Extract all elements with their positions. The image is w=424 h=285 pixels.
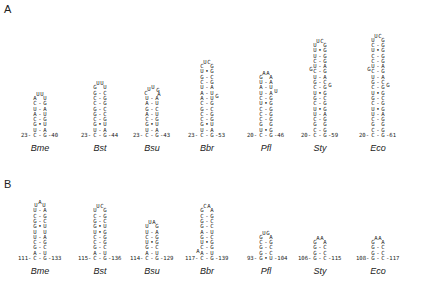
nucleotide-right: C	[42, 244, 48, 250]
position-number-right: -61	[386, 132, 396, 138]
nucleotide-right: G	[42, 213, 48, 219]
position-number-left: 23-	[81, 132, 91, 138]
nucleotide-right: G	[322, 47, 328, 53]
nucleotide-right: G	[102, 95, 108, 101]
nucleotide-right: C	[209, 106, 215, 112]
nucleotide-right: C	[322, 79, 328, 85]
nucleotide-right: A	[380, 74, 386, 80]
nucleotide-right: C	[102, 218, 108, 224]
nucleotide-right: A	[42, 234, 48, 240]
loop-nucleotide: U	[42, 95, 48, 101]
nucleotide-right: U	[42, 111, 48, 117]
position-number-left: 117-	[185, 255, 198, 261]
nucleotide-right: A	[322, 74, 328, 80]
species-label: Bsu	[127, 143, 177, 153]
species-label: Bst	[75, 143, 125, 153]
nucleotide-right: C	[322, 244, 328, 250]
position-number-right: -139	[215, 255, 228, 261]
nucleotide-right: G	[380, 90, 386, 96]
loop-nucleotide: A	[268, 234, 274, 240]
nucleotide-right: G	[154, 239, 160, 245]
nucleotide-right: G	[322, 53, 328, 59]
position-number-right: -44	[108, 132, 118, 138]
loop-nucleotide: A	[322, 239, 328, 245]
nucleotide-right: G	[380, 106, 386, 112]
position-number-left: 93-	[247, 255, 257, 261]
nucleotide-right: U	[154, 100, 160, 106]
nucleotide-right: U	[102, 121, 108, 127]
position-number-right: -129	[160, 255, 173, 261]
position-number-right: -40	[48, 132, 58, 138]
nucleotide-right: G	[322, 68, 328, 74]
nucleotide-right: A	[322, 63, 328, 69]
loop-nucleotide: A	[209, 207, 215, 213]
nucleotide-right: G	[209, 213, 215, 219]
position-number-right: -43	[160, 132, 170, 138]
panel-label: B	[4, 178, 11, 190]
loop-nucleotide: A	[268, 74, 274, 80]
loop-nucleotide: G	[322, 42, 328, 48]
nucleotide-right: G	[209, 111, 215, 117]
loop-nucleotide: G	[154, 223, 160, 229]
nucleotide-right: A	[42, 207, 48, 213]
species-label: Pfl	[241, 266, 291, 276]
nucleotide-left: G	[258, 121, 264, 127]
nucleotide-right: U	[42, 223, 48, 229]
nucleotide-right: G	[102, 234, 108, 240]
nucleotide-right: G	[102, 239, 108, 245]
position-number-left: 23-	[21, 132, 31, 138]
loop-nucleotide: A	[380, 239, 386, 245]
species-label: Bme	[15, 143, 65, 153]
loop-nucleotide: A	[156, 91, 162, 97]
nucleotide-right: A	[42, 106, 48, 112]
position-number-right: -53	[215, 132, 225, 138]
nucleotide-left: U	[32, 229, 38, 235]
nucleotide-right: G	[209, 239, 215, 245]
nucleotide-right: U	[154, 111, 160, 117]
nucleotide-right: A	[380, 111, 386, 117]
nucleotide-right: G	[209, 100, 215, 106]
species-label: Bbr	[182, 266, 232, 276]
position-number-right: -117	[386, 255, 399, 261]
nucleotide-right: U	[154, 121, 160, 127]
nucleotide-right: C	[209, 223, 215, 229]
nucleotide-right: G	[102, 213, 108, 219]
nucleotide-right: G	[268, 239, 274, 245]
nucleotide-right: A	[268, 79, 274, 85]
position-number-right: -104	[274, 255, 287, 261]
nucleotide-right: U	[209, 121, 215, 127]
nucleotide-right: C	[380, 79, 386, 85]
nucleotide-right: G	[209, 68, 215, 74]
loop-nucleotide: U	[102, 84, 108, 90]
nucleotide-right: G	[42, 100, 48, 106]
position-number-right: -136	[108, 255, 121, 261]
nucleotide-right: G	[380, 42, 386, 48]
position-number-right: -133	[48, 255, 61, 261]
nucleotide-right: G	[209, 244, 215, 250]
nucleotide-right: G	[322, 121, 328, 127]
nucleotide-right: C	[42, 218, 48, 224]
nucleotide-right: G	[380, 47, 386, 53]
position-number-left: 108-	[356, 255, 369, 261]
nucleotide-right: G	[268, 100, 274, 106]
nucleotide-right: G	[268, 111, 274, 117]
nucleotide-right: G	[102, 100, 108, 106]
nucleotide-right: A	[154, 229, 160, 235]
nucleotide-right: G	[380, 53, 386, 59]
nucleotide-right: G	[322, 58, 328, 64]
position-number-left: 23-	[188, 132, 198, 138]
position-number-left: 20-	[247, 132, 257, 138]
species-label: Sty	[295, 266, 345, 276]
position-number-right: -46	[274, 132, 284, 138]
nucleotide-right: G	[102, 116, 108, 122]
position-number-left: 23-	[133, 132, 143, 138]
species-label: Bsu	[127, 266, 177, 276]
nucleotide-right: C	[102, 90, 108, 96]
nucleotide-right: G	[380, 68, 386, 74]
position-number-left: 20-	[301, 132, 311, 138]
nucleotide-right: G	[322, 100, 328, 106]
nucleotide-right: G	[42, 239, 48, 245]
nucleotide-right: G	[154, 234, 160, 240]
nucleotide-right: C	[154, 244, 160, 250]
nucleotide-right: G	[322, 90, 328, 96]
